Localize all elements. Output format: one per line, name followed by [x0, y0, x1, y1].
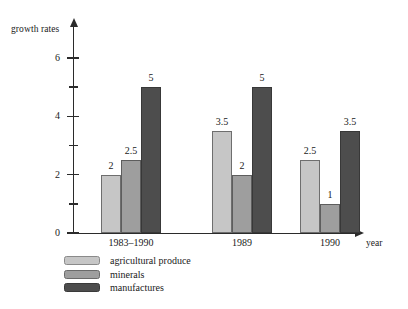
bar-chart: growth rates year 0246 22.553.5252.513.5…	[0, 0, 408, 309]
y-tick-minor	[69, 86, 78, 87]
legend-item-label: manufactures	[110, 282, 164, 293]
legend-item: agricultural produce	[64, 254, 191, 268]
bar-value-label: 3.5	[204, 117, 240, 127]
legend-item-label: minerals	[110, 269, 144, 280]
bar-value-label: 5	[133, 73, 169, 83]
legend-swatch-icon	[64, 270, 100, 279]
y-tick-label: 6	[16, 53, 60, 63]
legend-item-label: agricultural produce	[110, 255, 191, 266]
bar	[232, 175, 252, 233]
y-tick-major	[67, 174, 79, 175]
bar	[212, 131, 232, 233]
y-tick-major	[67, 116, 79, 117]
bar-value-label: 5	[244, 73, 280, 83]
bar	[252, 87, 272, 233]
legend-swatch-icon	[64, 256, 100, 265]
bar	[121, 160, 141, 233]
y-tick-minor	[69, 203, 78, 204]
bar	[340, 131, 360, 233]
x-axis-category-label: 1990	[285, 237, 375, 248]
legend-swatch-icon	[64, 283, 100, 292]
bar-value-label: 3.5	[332, 117, 368, 127]
bar	[141, 87, 161, 233]
y-tick-major	[67, 57, 79, 58]
y-axis-title: growth rates	[11, 24, 59, 34]
legend-item: minerals	[64, 268, 191, 282]
legend-item: manufactures	[64, 281, 191, 295]
bar	[320, 204, 340, 233]
y-tick-label: 0	[16, 228, 60, 238]
x-axis-category-label: 1983–1990	[86, 237, 176, 248]
bar-value-label: 2.5	[292, 146, 328, 156]
chart-legend: agricultural producemineralsmanufactures	[64, 254, 191, 295]
bar	[101, 175, 121, 233]
y-tick-label: 2	[16, 170, 60, 180]
y-tick-label: 4	[16, 111, 60, 121]
y-tick-minor	[69, 145, 78, 146]
y-tick-major	[67, 232, 79, 233]
x-axis-category-label: 1989	[197, 237, 287, 248]
